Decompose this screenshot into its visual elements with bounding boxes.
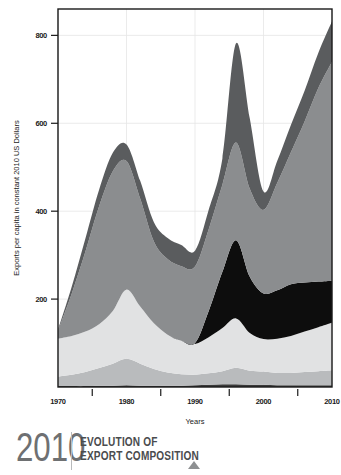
x-tick-label: 1970 — [50, 397, 66, 406]
y-axis-ticks: 200400600800 — [35, 31, 58, 304]
x-axis-title: Years — [186, 417, 205, 426]
footer-divider — [71, 432, 72, 470]
x-axis-ticks: 19701980199020002010 — [50, 389, 340, 406]
x-tick-label: 1990 — [187, 397, 203, 406]
x-tick-label: 2000 — [256, 397, 272, 406]
footer-title-line-1: EVOLUTION OF — [80, 435, 199, 449]
y-tick-label: 400 — [35, 207, 47, 216]
export-composition-chart: 200400600800 19701980199020002010 Export… — [0, 0, 341, 475]
y-tick-label: 600 — [35, 119, 47, 128]
triangle-up-icon — [188, 461, 200, 469]
y-axis-title: Exports per capita in constant 2010 US D… — [12, 120, 21, 276]
x-tick-label: 1980 — [119, 397, 135, 406]
footer-title-line-2: EXPORT COMPOSITION — [80, 449, 199, 463]
y-tick-label: 800 — [35, 31, 47, 40]
footer-caption: 2010 EVOLUTION OF EXPORT COMPOSITION — [0, 428, 341, 475]
y-tick-label: 200 — [35, 295, 47, 304]
footer-year-label: 2010 — [16, 424, 85, 470]
x-tick-label: 2010 — [324, 397, 340, 406]
footer-title: EVOLUTION OF EXPORT COMPOSITION — [80, 435, 199, 463]
